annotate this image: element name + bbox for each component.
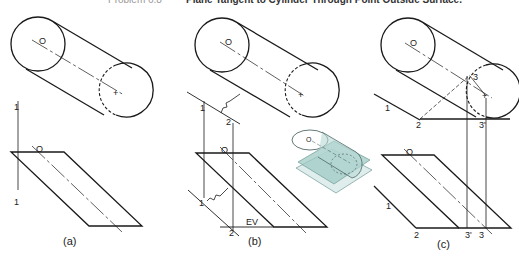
tangent-plane-edge-line: [374, 94, 420, 120]
tangent-plane-edge-line: [187, 92, 240, 124]
point-1-front-label: 1: [199, 198, 204, 208]
cylinder-edge-top: [424, 23, 503, 70]
cylinder-front-view: [382, 155, 511, 228]
point-2-front-label: 2: [229, 228, 234, 238]
panel-c: O + 1 2 3 3' O 1 2 3' 3 (c): [374, 18, 519, 250]
front-center-label-o: O: [36, 144, 43, 154]
break-symbol: [221, 94, 240, 113]
front-center-label-o: O: [406, 147, 413, 157]
point-1-front-label: 1: [386, 201, 391, 211]
point-1-top-label: 1: [385, 103, 390, 113]
point-3prime-top-label: 3': [479, 120, 486, 130]
point-2-top-label: 2: [226, 117, 231, 127]
cylinder-edge-top: [238, 23, 318, 70]
front-axis: [32, 146, 122, 232]
point-1-front-label: 1: [14, 197, 19, 207]
cylinder-edge-top: [54, 22, 132, 68]
panel-a: O + 1 O 1 (a): [11, 17, 153, 247]
point-2-front-label: 2: [414, 230, 419, 240]
front-center-label-o: O: [221, 145, 228, 155]
sublabel-b: (b): [248, 235, 261, 247]
point-3prime-front-label: 3': [465, 230, 472, 240]
center-label-o: O: [410, 38, 417, 48]
cylinder-end-circle: [11, 17, 65, 71]
cylinder-edge-bottom: [396, 70, 476, 117]
center-mark: +: [298, 90, 303, 100]
front-axis: [404, 149, 492, 234]
sublabel-c: (c): [437, 238, 450, 250]
edge-view-label: EV: [246, 217, 258, 227]
point-1-top-label: 1: [14, 102, 19, 112]
tangent-construction-line: [420, 75, 470, 119]
cylinder-end-circle: [195, 18, 249, 72]
center-label-o: O: [225, 37, 232, 47]
point-3-front-label: 3: [479, 230, 484, 240]
cylinder-axis: [32, 40, 124, 95]
point-2-top-label: 2: [416, 120, 421, 130]
cylinder-far-end-arc: [116, 63, 153, 117]
cylinder-far-end-arc: [302, 63, 339, 117]
break-symbol-front: [207, 188, 228, 201]
sublabel-a: (a): [63, 235, 76, 247]
center-label-o: O: [39, 36, 46, 46]
cylinder-far-end-arc: [486, 64, 519, 118]
technical-drawing: O + 1 O 1 (a) O + 1 2 O 1 2: [0, 0, 519, 257]
center-mark: +: [113, 88, 118, 98]
tangent-plane-front-edge: [374, 186, 416, 228]
point-3-top-label: 3: [473, 72, 478, 82]
inset-pictorial: O: [292, 130, 372, 193]
inset-center-label: O: [306, 136, 312, 143]
